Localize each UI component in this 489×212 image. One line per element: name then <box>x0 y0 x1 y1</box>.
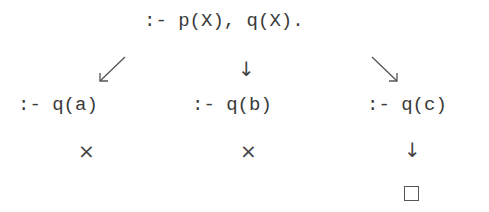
arrow-left-icon <box>95 55 135 85</box>
arrow-down-icon-c: ↓ <box>404 139 421 161</box>
branch-goal-b: :- q(b) <box>192 94 272 116</box>
branch-goal-c: :- q(c) <box>367 94 447 116</box>
arrow-right-icon <box>370 55 410 85</box>
failure-icon-b: × <box>240 140 257 162</box>
arrow-down-icon: ↓ <box>238 58 255 80</box>
root-goal: :- p(X), q(X). <box>144 10 304 32</box>
branch-goal-a: :- q(a) <box>18 94 98 116</box>
failure-icon-a: × <box>78 140 95 162</box>
success-box-icon <box>404 186 419 201</box>
